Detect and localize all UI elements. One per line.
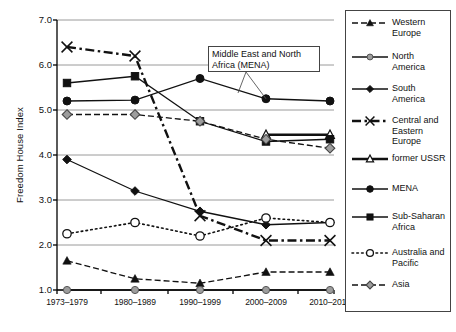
legend-item-3[interactable]: Central and Eastern Europe: [350, 115, 450, 147]
marker-circle-gray: [367, 54, 373, 60]
legend-label-2: South America: [392, 83, 425, 104]
legend-key-triangle-filled-icon: [350, 17, 390, 29]
marker-diamond-filled: [366, 85, 373, 92]
marker-circle-filled: [63, 97, 71, 105]
marker-triangle-filled: [262, 268, 270, 276]
legend-key-circle-filled-icon: [350, 183, 390, 195]
marker-square-filled: [63, 79, 70, 86]
marker-circle-filled: [367, 186, 374, 193]
legend-label-4: former USSR: [392, 153, 446, 164]
legend-item-5[interactable]: MENA: [350, 183, 450, 195]
legend-key-x-cross-icon: [350, 115, 390, 127]
marker-circle-open: [63, 230, 71, 238]
series-1: [63, 286, 333, 293]
marker-square-filled: [367, 214, 373, 220]
legend-key-circle-open-icon: [350, 247, 390, 259]
marker-circle-gray: [131, 286, 138, 293]
marker-circle-gray: [262, 286, 269, 293]
legend-item-7[interactable]: Australia and Pacific: [350, 247, 450, 268]
legend-label-1: North America: [392, 51, 425, 72]
legend-label-7: Australia and Pacific: [392, 247, 445, 268]
legend-label-6: Sub-Saharan Africa: [392, 211, 445, 232]
series-line: [67, 76, 330, 141]
marker-diamond-filled: [131, 187, 140, 196]
legend: Western EuropeNorth AmericaSouth America…: [345, 10, 451, 312]
legend-key-diamond-filled-icon: [350, 83, 390, 95]
annotation-mena: Middle East and North Africa (MENA): [208, 46, 320, 72]
legend-item-0[interactable]: Western Europe: [350, 17, 450, 38]
series-8: [62, 110, 335, 153]
legend-key-circle-gray-icon: [350, 51, 390, 63]
marker-circle-open: [326, 218, 334, 226]
legend-label-0: Western Europe: [392, 17, 425, 38]
marker-square-filled: [326, 136, 333, 143]
marker-diamond-gray: [325, 143, 335, 153]
marker-square-filled: [131, 73, 138, 80]
freedom-house-index-chart: Freedom House Index 1.02.03.04.05.06.07.…: [0, 0, 456, 332]
marker-triangle-filled: [63, 257, 71, 265]
marker-circle-open: [131, 218, 139, 226]
marker-circle-gray: [326, 286, 333, 293]
legend-item-2[interactable]: South America: [350, 83, 450, 104]
legend-key-triangle-open-icon: [350, 153, 390, 165]
marker-circle-open: [262, 214, 270, 222]
series-0: [63, 257, 334, 287]
legend-label-5: MENA: [392, 183, 418, 194]
marker-diamond-gray: [366, 281, 374, 289]
marker-circle-filled: [196, 75, 204, 83]
series-line: [67, 261, 330, 284]
legend-label-8: Asia: [392, 279, 410, 290]
legend-key-diamond-gray-icon: [350, 279, 390, 291]
legend-key-square-filled-icon: [350, 211, 390, 223]
marker-circle-open: [196, 232, 204, 240]
series-4: [262, 130, 335, 138]
legend-label-3: Central and Eastern Europe: [392, 115, 450, 147]
marker-circle-filled: [131, 96, 139, 104]
legend-item-4[interactable]: former USSR: [350, 153, 450, 165]
marker-diamond-gray: [62, 110, 72, 120]
legend-item-6[interactable]: Sub-Saharan Africa: [350, 211, 450, 232]
marker-circle-gray: [63, 286, 70, 293]
marker-circle-gray: [196, 286, 203, 293]
marker-circle-filled: [326, 97, 334, 105]
legend-item-1[interactable]: North America: [350, 51, 450, 72]
marker-diamond-gray: [130, 110, 140, 120]
marker-x-cross: [130, 51, 141, 62]
legend-item-8[interactable]: Asia: [350, 279, 450, 291]
marker-circle-open: [367, 250, 374, 257]
marker-diamond-filled: [63, 155, 72, 164]
